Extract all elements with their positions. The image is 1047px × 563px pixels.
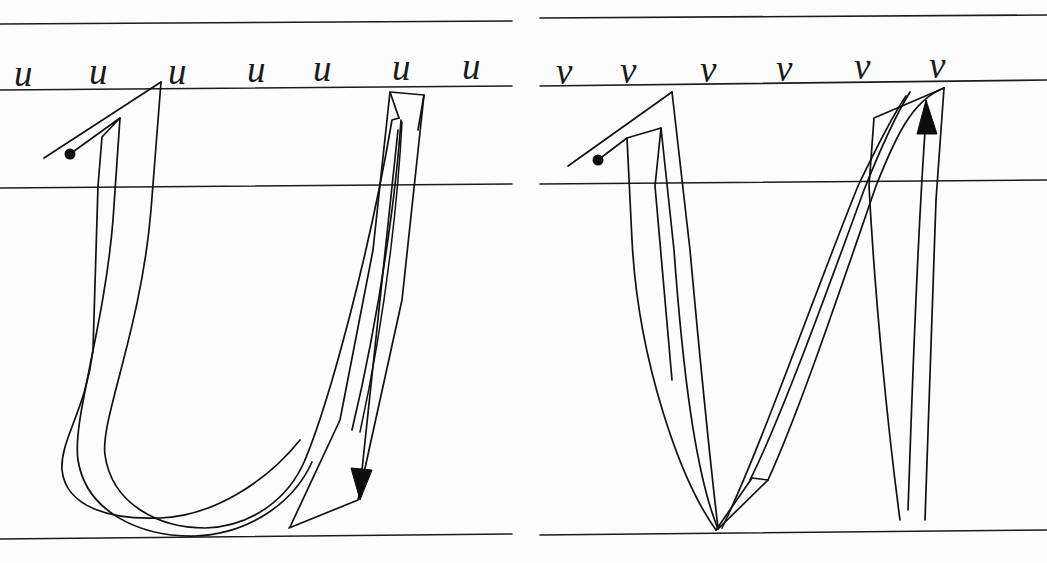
model-letter-u: u	[247, 49, 266, 90]
u-outer-right-descender	[289, 95, 424, 528]
v-left-arm-inner-edge	[627, 138, 716, 530]
panel-v-guidelines	[540, 15, 1047, 535]
model-letter-u: u	[313, 48, 332, 89]
model-letter-u: u	[14, 53, 33, 94]
u-start-dot	[65, 149, 76, 160]
panel-v: v v v v v v	[540, 15, 1047, 535]
v-right-arm-outer-edge	[768, 88, 944, 480]
panel-u: u u u u u u u	[0, 21, 512, 539]
midline	[0, 184, 512, 188]
model-letter-v: v	[700, 49, 717, 90]
panel-u-guidelines	[0, 21, 512, 539]
v-inner-entry-hook	[598, 128, 672, 380]
model-letter-u: u	[462, 46, 481, 87]
u-outer-left-downstroke	[105, 82, 305, 528]
model-letter-v: v	[620, 50, 637, 91]
model-letter-u: u	[168, 51, 187, 92]
model-letter-v: v	[556, 51, 573, 92]
ascender-line	[0, 21, 512, 24]
u-middle-bowl-stroke	[77, 118, 312, 536]
baseline	[0, 534, 512, 539]
x-height-line	[540, 80, 1047, 86]
model-letter-u: u	[392, 47, 411, 88]
u-top-right-shoulder	[390, 92, 424, 130]
model-letter-v: v	[776, 48, 793, 89]
midline	[540, 180, 1047, 184]
u-inner-bowl-stroke	[62, 350, 300, 518]
v-arrow-shaft	[908, 132, 925, 510]
v-start-dot	[593, 155, 604, 166]
ascender-line	[540, 15, 1047, 18]
panel-u-demo-stroke	[44, 82, 424, 536]
baseline	[540, 530, 1047, 535]
v-left-arm-middle-line	[661, 128, 718, 529]
handwriting-worksheet: u u u u u u u	[0, 0, 1047, 563]
u-arrow-head-down	[351, 468, 372, 500]
v-right-edge-descender	[925, 88, 944, 520]
v-right-arm-middle-line	[750, 92, 910, 480]
u-entry-lead-line	[44, 82, 161, 158]
model-letter-u: u	[89, 51, 108, 92]
model-letter-v: v	[854, 46, 871, 87]
model-letter-v: v	[929, 45, 946, 86]
panel-v-demo-stroke	[568, 88, 944, 530]
worksheet-canvas: u u u u u u u	[0, 0, 1047, 563]
